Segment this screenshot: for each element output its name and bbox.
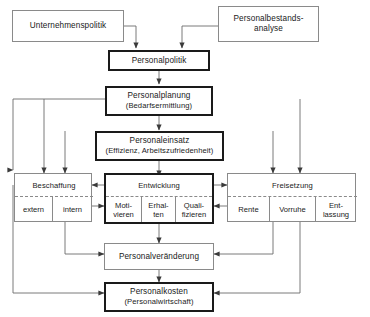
node-personalpolitik[interactable]: Personalpolitik [108, 50, 210, 71]
node-personalveraenderung[interactable]: Personalveränderung [104, 243, 214, 270]
cell-label-line1: Vorruhe [279, 205, 306, 214]
node-unternehmenspolitik[interactable]: Unternehmenspolitik [12, 10, 124, 42]
node-label-line1: Personalplanung [128, 91, 191, 101]
node-label: Entwicklung [138, 181, 180, 190]
cell-label-line1: Ent- [329, 201, 343, 210]
node-label-line1: Personalbestands- [234, 14, 304, 24]
node-label: Personalveränderung [119, 252, 199, 262]
entwicklung-cell-motivieren[interactable]: Moti- vieren [106, 197, 141, 222]
node-label-line2: (Bedarfsermittlung) [126, 101, 192, 111]
freisetzung-cell-rente[interactable]: Rente [228, 197, 269, 222]
node-label-line2: (Personalwirtschaft) [124, 297, 193, 307]
cell-label-line2: ten [153, 210, 164, 219]
cell-label-line2: vieren [113, 210, 134, 219]
freisetzung-cell-entlassung[interactable]: Ent- lassung [316, 197, 356, 222]
node-label: Personalpolitik [132, 56, 187, 66]
freisetzung-cell-vorruhe[interactable]: Vorruhe [270, 197, 315, 222]
cell-label-line1: Quali- [184, 201, 204, 210]
node-beschaffung[interactable]: Beschaffung extern intern [14, 173, 92, 222]
node-personalplanung[interactable]: Personalplanung (Bedarfsermittlung) [105, 86, 213, 116]
entwicklung-cell-erhalten[interactable]: Erhal- ten [142, 197, 175, 222]
diagram-canvas: Unternehmenspolitik Personalbestands- an… [0, 0, 370, 317]
node-label-line1: Personaleinsatz [130, 136, 190, 146]
cell-label: intern [63, 205, 82, 214]
node-label-line2: (Effizienz, Arbeitszufriedenheit) [106, 146, 214, 156]
node-label-line2: analyse [254, 24, 283, 34]
cell-label-line1: Moti- [115, 201, 132, 210]
cell-label: extern [23, 205, 44, 214]
node-label-line1: Personalkosten [130, 287, 188, 297]
node-label: Unternehmenspolitik [30, 21, 107, 31]
freisetzung-header: Freisetzung [228, 174, 357, 196]
cell-label-line1: Erhal- [148, 201, 168, 210]
cell-label-line2: lassung [323, 210, 349, 219]
node-label: Freisetzung [272, 181, 313, 190]
node-personaleinsatz[interactable]: Personaleinsatz (Effizienz, Arbeitszufri… [95, 131, 224, 161]
cell-label-line1: Rente [238, 205, 258, 214]
entwicklung-header: Entwicklung [106, 175, 212, 196]
beschaffung-cell-intern[interactable]: intern [53, 197, 92, 222]
cell-label-line2: fizieren [182, 210, 206, 219]
node-freisetzung[interactable]: Freisetzung Rente Vorruhe Ent- lassung [227, 173, 356, 222]
node-label: Beschaffung [32, 181, 75, 190]
entwicklung-cell-qualifizieren[interactable]: Quali- fizieren [176, 197, 212, 222]
node-personalkosten[interactable]: Personalkosten (Personalwirtschaft) [104, 282, 214, 312]
node-personalbestandsanalyse[interactable]: Personalbestands- analyse [218, 6, 319, 42]
beschaffung-cell-extern[interactable]: extern [15, 197, 52, 222]
node-entwicklung[interactable]: Entwicklung Moti- vieren Erhal- ten Qual… [104, 173, 214, 224]
beschaffung-header: Beschaffung [15, 174, 93, 196]
